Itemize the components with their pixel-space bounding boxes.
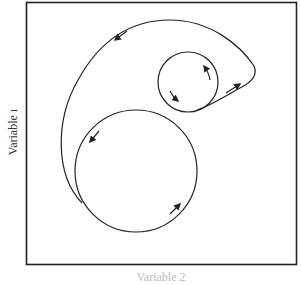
plot-frame <box>27 3 297 265</box>
y-axis-label: Variable ı <box>6 109 21 155</box>
arrow-down-right-icon <box>170 91 178 101</box>
arrow-down-left-icon <box>90 131 99 142</box>
arrow-up-left-icon <box>204 66 210 80</box>
arrow-icons <box>90 31 240 214</box>
x-axis-label: Variable 2 <box>137 270 186 285</box>
arrow-up-right-icon <box>170 204 180 214</box>
outer-loop-curve <box>61 20 255 203</box>
large-circle <box>75 110 197 232</box>
small-circle <box>158 52 218 112</box>
